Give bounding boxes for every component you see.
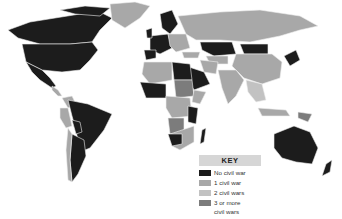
region-canada [8, 12, 112, 44]
region-horn [192, 90, 206, 104]
region-korea-japan [284, 50, 300, 66]
region-peru [60, 108, 72, 128]
region-new-zealand [322, 160, 332, 176]
region-namibia-botswana [168, 134, 182, 146]
key-item-no-civil-war: No civil war [199, 169, 261, 176]
region-uk [146, 28, 152, 38]
swatch-3-or-more [199, 200, 211, 206]
key-label-continued: civil wars [214, 208, 261, 215]
region-libya-egypt [172, 62, 192, 80]
key-label: 3 or more [214, 199, 240, 206]
region-russia [178, 10, 318, 42]
region-iberia [144, 50, 156, 60]
region-north-africa-west [142, 62, 172, 84]
key-item-2-civil-wars: 2 civil wars [199, 189, 261, 196]
region-australia [274, 126, 318, 164]
world-map [0, 0, 342, 219]
key-item-3-or-more: 3 or more [199, 199, 261, 206]
key-title: KEY [199, 155, 261, 166]
region-west-africa [140, 82, 166, 98]
key-label: No civil war [214, 169, 246, 176]
region-india [218, 70, 244, 104]
map-key: KEY No civil war 1 civil war 2 civil war… [199, 155, 261, 215]
swatch-2-civil-wars [199, 190, 211, 196]
region-kazakhstan [200, 42, 236, 56]
region-scandinavia [160, 10, 178, 34]
key-item-1-civil-war: 1 civil war [199, 179, 261, 186]
region-mongolia [240, 44, 268, 54]
region-png [298, 112, 312, 122]
swatch-1-civil-war [199, 180, 211, 186]
region-turkey [182, 52, 200, 58]
region-central-america [52, 86, 62, 96]
region-east-africa [188, 106, 198, 124]
region-madagascar [200, 128, 206, 144]
region-argentina [70, 134, 86, 182]
region-indonesia [258, 108, 290, 116]
region-eastern-europe [168, 34, 190, 52]
key-label: 2 civil wars [214, 189, 244, 196]
region-sudan [174, 80, 194, 98]
swatch-no-civil-war [199, 170, 211, 176]
region-greenland [110, 2, 150, 28]
key-label: 1 civil war [214, 179, 241, 186]
